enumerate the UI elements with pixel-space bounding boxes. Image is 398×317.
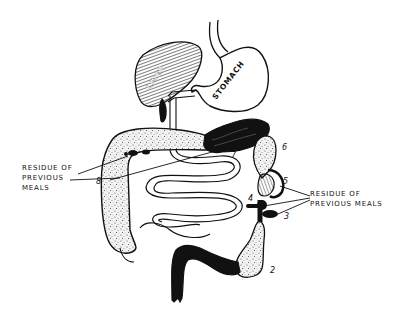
left-callout-line-3: MEALS [22,184,50,192]
small-intestine [140,150,242,237]
right-callout: RESIDUE OF PREVIOUS MEALS [310,190,382,208]
marker-8: 8 [96,177,101,186]
left-callout-line-2: PREVIOUS [22,174,64,182]
sigmoid-rectum [172,245,240,302]
left-callout: RESIDUE OF PREVIOUS MEALS [22,164,73,192]
marker-3: 3 [284,212,289,221]
ascending-colon [101,128,210,262]
right-callout-line-1: RESIDUE OF [310,190,361,198]
esophagus [209,20,228,58]
marker-4: 4 [248,194,253,203]
marker-5: 5 [283,177,288,186]
descending-colon [236,136,283,277]
marker-2: 2 [270,266,275,275]
marker-6: 6 [282,143,287,152]
right-callout-line-2: PREVIOUS MEALS [310,200,382,208]
left-callout-line-1: RESIDUE OF [22,164,73,172]
liver: LIVER [135,42,202,107]
stomach: STOMACH [191,47,268,111]
digestive-tract-illustration: STOMACH LIVER [0,0,398,317]
